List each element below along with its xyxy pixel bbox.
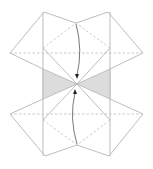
right-shaded-triangle xyxy=(77,69,111,99)
upper-fold-arrow xyxy=(76,24,80,75)
lower-flap-outline xyxy=(10,114,143,156)
lower-right-upper-edge xyxy=(110,99,143,114)
lower-left-diagonal-crease xyxy=(43,120,77,145)
upper-flap-outline xyxy=(10,12,143,53)
lower-arrowhead-icon xyxy=(73,89,77,94)
lower-left-upper-edge xyxy=(10,99,43,114)
upper-right-diagonal-crease xyxy=(76,23,110,48)
upper-left-diagonal-crease xyxy=(43,23,76,48)
upper-arrowhead-icon xyxy=(75,74,79,79)
lower-right-diagonal-crease xyxy=(77,120,110,145)
upper-right-lower-edge xyxy=(110,53,143,69)
left-shaded-triangle xyxy=(42,69,77,99)
origami-diagram xyxy=(0,0,153,169)
upper-left-lower-edge xyxy=(10,53,43,69)
lower-fold-arrow xyxy=(72,93,77,144)
